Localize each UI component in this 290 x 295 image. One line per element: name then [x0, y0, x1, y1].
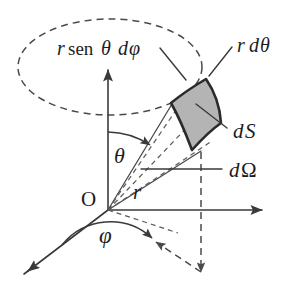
- surface-element-patch: [171, 79, 221, 150]
- label-solid-angle: d Ω: [229, 158, 257, 182]
- label-arc-length-phi-sen: sen: [68, 38, 94, 59]
- label-arc-length-phi-d: d: [118, 37, 129, 59]
- label-solid-angle-d: d: [229, 158, 240, 182]
- x-axis-arrow-tail: [24, 268, 32, 274]
- spherical-solid-angle-diagram: r sen θ d φ r d θ d S d Ω O r θ φ: [0, 0, 290, 295]
- label-arc-length-phi-phi: φ: [129, 37, 140, 60]
- label-arc-length-theta-d: d: [249, 34, 260, 56]
- label-solid-angle-omega: Ω: [241, 158, 257, 182]
- x-axis: [28, 210, 108, 271]
- label-origin: O: [81, 187, 96, 211]
- label-arc-length-phi-theta: θ: [101, 37, 111, 59]
- label-arc-length-theta-r: r: [237, 34, 245, 56]
- label-area-element-d: d: [233, 119, 244, 143]
- label-arc-length-theta: r d θ: [237, 34, 270, 56]
- label-arc-length-phi-r: r: [57, 37, 65, 59]
- label-radius: r: [133, 180, 142, 204]
- azimuth-ray-dashed: [108, 210, 178, 233]
- label-arc-length-theta-theta: θ: [260, 34, 270, 56]
- label-area-element: d S: [233, 119, 256, 143]
- label-azimuth-angle: φ: [99, 223, 112, 248]
- leader-arc-length-theta: [209, 47, 232, 76]
- label-arc-length-phi: r sen θ d φ: [57, 37, 140, 60]
- figure-root: r sen θ d φ r d θ d S d Ω O r θ φ: [0, 0, 290, 295]
- azimuth-projection-dashed: [156, 242, 201, 272]
- label-area-element-s: S: [245, 119, 256, 143]
- label-polar-angle: θ: [114, 143, 125, 168]
- leader-arc-length-phi: [160, 48, 186, 80]
